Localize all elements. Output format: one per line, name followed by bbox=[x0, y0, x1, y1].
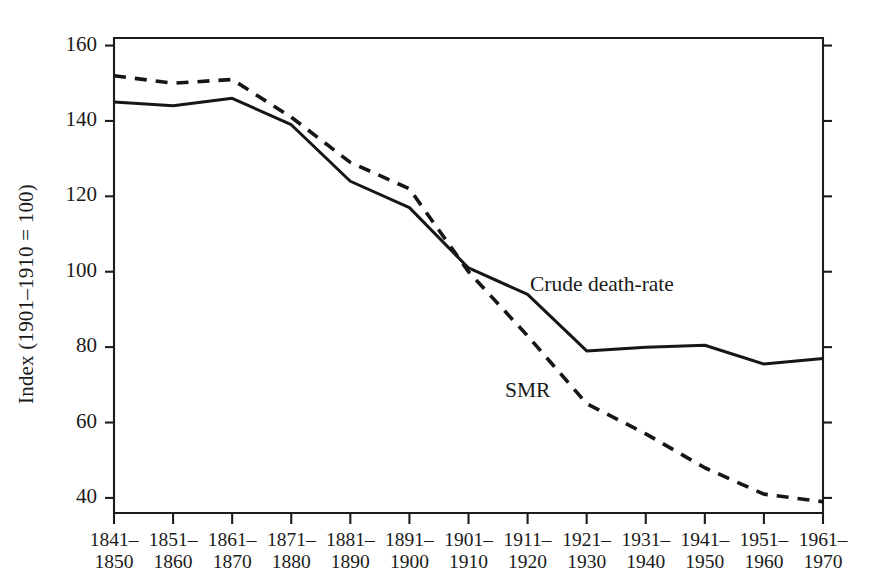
y-axis-label-text: Index (1901–1910 = 100) bbox=[14, 184, 39, 404]
series-line-2 bbox=[114, 76, 823, 502]
y-tick-label: 100 bbox=[41, 258, 97, 283]
x-tick-label: 1961–1970 bbox=[788, 529, 858, 573]
y-tick-label: 140 bbox=[41, 107, 97, 132]
data-series bbox=[114, 76, 823, 502]
series-line-1 bbox=[114, 98, 823, 364]
line-chart-canvas bbox=[0, 0, 870, 588]
y-tick-label: 120 bbox=[41, 182, 97, 207]
axes bbox=[114, 38, 823, 513]
y-tick-label: 160 bbox=[41, 32, 97, 57]
y-tick-label: 60 bbox=[41, 409, 97, 434]
chart-figure: Index (1901–1910 = 100) 4060801001201401… bbox=[0, 0, 870, 588]
series-annotation-1: Crude death-rate bbox=[530, 272, 674, 297]
x-tick-label-line1: 1961– bbox=[788, 529, 858, 551]
y-tick-label: 40 bbox=[41, 484, 97, 509]
x-tick-label-line2: 1970 bbox=[788, 551, 858, 573]
series-annotation-2: SMR bbox=[505, 378, 550, 403]
y-tick-label: 80 bbox=[41, 333, 97, 358]
axis-ticks bbox=[105, 46, 832, 524]
